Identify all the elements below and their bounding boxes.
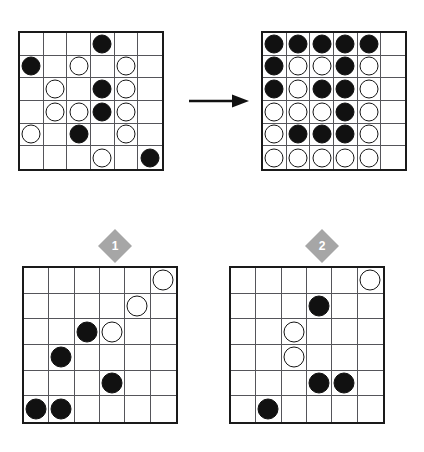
grid-cell-r4-c1: [263, 101, 287, 124]
grid-cell-r2-c5: [332, 294, 357, 320]
black-stone: [336, 80, 355, 99]
grid-cell-r6-c3: [282, 396, 307, 422]
grid-cell-r3-c2: [287, 78, 311, 101]
grid-cell-r3-c3: [75, 319, 100, 345]
grid-cell-r4-c5: [115, 101, 139, 124]
grid-cell-r1-c1: [263, 33, 287, 56]
grid-cell-r2-c5: [115, 56, 139, 79]
black-stone: [141, 148, 160, 167]
grid-cell-r4-c5: [358, 101, 382, 124]
grid-cell-r6-c2: [49, 396, 74, 422]
grid-cell-r4-c6: [358, 345, 383, 371]
grid-cell-r4-c3: [75, 345, 100, 371]
grid-cell-r5-c4: [91, 124, 115, 147]
grid-cell-r3-c1: [24, 319, 49, 345]
white-stone: [116, 125, 135, 144]
grid-cell-r4-c4: [100, 345, 125, 371]
grid-cell-r1-c4: [100, 268, 125, 294]
black-stone: [51, 347, 72, 368]
black-stone: [102, 372, 123, 393]
white-stone: [312, 102, 331, 121]
grid-cell-r2-c3: [282, 294, 307, 320]
grid-cell-r2-c5: [358, 56, 382, 79]
white-stone: [359, 57, 378, 76]
white-stone: [22, 125, 41, 144]
white-stone: [69, 102, 88, 121]
option-2-cells: [231, 268, 383, 422]
black-stone: [93, 34, 112, 53]
grid-cell-r4-c3: [67, 101, 91, 124]
grid-cell-r4-c2: [49, 345, 74, 371]
grid-cell-r6-c4: [334, 146, 358, 169]
grid-cell-r6-c1: [20, 146, 44, 169]
grid-cell-r6-c6: [358, 396, 383, 422]
white-stone: [93, 148, 112, 167]
grid-cell-r2-c5: [125, 294, 150, 320]
grid-cell-r1-c6: [358, 268, 383, 294]
grid-cell-r5-c2: [256, 371, 281, 397]
grid-cell-r3-c4: [334, 78, 358, 101]
white-stone: [359, 80, 378, 99]
grid-cell-r4-c4: [334, 101, 358, 124]
white-stone: [283, 347, 304, 368]
grid-cell-r3-c4: [91, 78, 115, 101]
grid-cell-r5-c5: [358, 124, 382, 147]
grid-cell-r4-c2: [44, 101, 68, 124]
grid-cell-r6-c4: [307, 396, 332, 422]
black-stone: [334, 372, 355, 393]
grid-cell-r1-c1: [231, 268, 256, 294]
white-stone: [153, 270, 174, 291]
grid-cell-r3-c5: [332, 319, 357, 345]
grid-cell-r1-c3: [310, 33, 334, 56]
grid-cell-r5-c3: [67, 124, 91, 147]
grid-cell-r6-c5: [332, 396, 357, 422]
white-stone: [127, 295, 148, 316]
answer-option-1[interactable]: [22, 266, 178, 424]
grid-cell-r5-c5: [125, 371, 150, 397]
grid-cell-r3-c1: [263, 78, 287, 101]
white-stone: [116, 57, 135, 76]
white-stone: [359, 125, 378, 144]
option-2-badge[interactable]: 2: [305, 229, 339, 263]
source-grid: [18, 31, 164, 171]
black-stone: [288, 125, 307, 144]
black-stone: [265, 57, 284, 76]
grid-cell-r5-c4: [100, 371, 125, 397]
black-stone: [51, 399, 72, 420]
black-stone: [309, 295, 330, 316]
grid-cell-r2-c1: [24, 294, 49, 320]
grid-cell-r6-c3: [67, 146, 91, 169]
grid-cell-r6-c4: [100, 396, 125, 422]
answer-option-2[interactable]: [229, 266, 385, 424]
grid-cell-r2-c1: [20, 56, 44, 79]
white-stone: [288, 57, 307, 76]
grid-cell-r5-c1: [231, 371, 256, 397]
grid-cell-r1-c5: [332, 268, 357, 294]
grid-cell-r3-c4: [100, 319, 125, 345]
white-stone: [359, 102, 378, 121]
grid-cell-r2-c6: [138, 56, 162, 79]
white-stone: [265, 102, 284, 121]
grid-cell-r2-c3: [310, 56, 334, 79]
grid-cell-r3-c6: [138, 78, 162, 101]
target-grid-cells: [263, 33, 405, 169]
grid-cell-r3-c5: [115, 78, 139, 101]
grid-cell-r5-c1: [24, 371, 49, 397]
white-stone: [312, 57, 331, 76]
option-1-badge[interactable]: 1: [98, 229, 132, 263]
grid-cell-r1-c3: [75, 268, 100, 294]
grid-cell-r2-c3: [67, 56, 91, 79]
grid-cell-r6-c5: [125, 396, 150, 422]
grid-cell-r4-c4: [307, 345, 332, 371]
puzzle-canvas: 1 2: [0, 0, 424, 452]
option-1-cells: [24, 268, 176, 422]
grid-cell-r1-c4: [307, 268, 332, 294]
grid-cell-r4-c3: [282, 345, 307, 371]
grid-cell-r4-c1: [20, 101, 44, 124]
grid-cell-r6-c5: [115, 146, 139, 169]
grid-cell-r1-c6: [381, 33, 405, 56]
grid-cell-r2-c2: [44, 56, 68, 79]
white-stone: [288, 102, 307, 121]
black-stone: [359, 34, 378, 53]
grid-cell-r5-c2: [49, 371, 74, 397]
